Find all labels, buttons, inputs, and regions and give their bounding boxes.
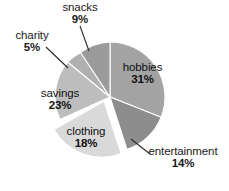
slice-label-snacks-percent: 9%: [47, 14, 113, 26]
slice-label-hobbies: hobbies 31%: [111, 62, 174, 86]
pie-chart: snacks 9% charity 5% savings 23% clothin…: [0, 0, 229, 191]
slice-label-clothing-percent: 18%: [51, 138, 121, 150]
leader-line-snacks: [80, 26, 89, 51]
slice-label-charity-percent: 5%: [1, 42, 63, 54]
slice-label-savings-percent: 23%: [29, 100, 91, 112]
slice-label-entertainment-percent: 14%: [137, 158, 229, 170]
slice-label-entertainment: entertainment 14%: [137, 146, 229, 170]
slice-label-snacks: snacks 9%: [47, 2, 113, 26]
slice-label-clothing: clothing 18%: [51, 126, 121, 150]
slice-label-hobbies-percent: 31%: [111, 74, 174, 86]
slice-label-charity: charity 5%: [1, 30, 63, 54]
slice-label-savings: savings 23%: [29, 88, 91, 112]
